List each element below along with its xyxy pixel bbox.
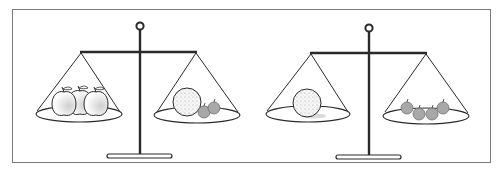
left-pan	[36, 53, 122, 122]
apple-icon	[52, 87, 76, 116]
orange-icon	[293, 89, 321, 117]
right-scale	[266, 24, 469, 159]
scale-base	[107, 154, 172, 158]
small-fruit-icon	[401, 99, 413, 114]
small-fruit-icon	[208, 99, 220, 114]
balance-diagram	[0, 0, 504, 178]
scale-base	[336, 155, 401, 159]
apple-icon	[84, 87, 108, 116]
right-pan	[154, 53, 240, 123]
orange-icon	[173, 88, 201, 116]
right-pan	[383, 54, 469, 124]
small-fruit-icon	[426, 105, 438, 120]
left-scale	[36, 22, 240, 158]
hanging-ring-icon	[365, 24, 372, 31]
left-pan	[266, 54, 350, 122]
small-fruit-icon	[437, 99, 449, 114]
small-fruit-icon	[413, 105, 425, 120]
hanging-ring-icon	[136, 22, 143, 29]
